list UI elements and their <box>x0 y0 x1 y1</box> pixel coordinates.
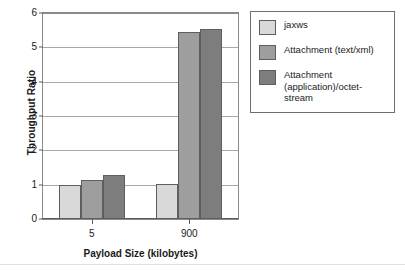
chart-legend: jaxwsAttachment (text/xml)Attachment (ap… <box>250 11 395 113</box>
legend-swatch <box>259 45 276 60</box>
x-tick-label-5: 5 <box>89 228 95 239</box>
y-tick-label-4: 4 <box>31 77 37 87</box>
legend-item: jaxws <box>259 19 387 35</box>
bar <box>103 175 125 219</box>
bar <box>156 184 178 219</box>
plot-area: 01234565900 <box>42 12 239 220</box>
legend-swatch <box>259 20 276 35</box>
bar <box>81 180 103 219</box>
legend-item: Attachment (application)/octet-stream <box>259 69 387 104</box>
legend-label: Attachment (text/xml) <box>284 44 374 56</box>
legend-label: jaxws <box>284 19 308 31</box>
x-axis-title: Payload Size (kilobytes) <box>42 248 239 259</box>
y-tick-label-0: 0 <box>31 214 37 224</box>
bar-chart-figure: Throughput Ratio 01234565900 Payload Siz… <box>0 0 405 270</box>
y-tick-label-6: 6 <box>31 8 37 18</box>
y-tick-label-3: 3 <box>31 111 37 121</box>
x-tick-label-900: 900 <box>181 228 198 239</box>
x-tick-mark <box>189 219 190 224</box>
legend-label: Attachment (application)/octet-stream <box>284 69 387 104</box>
y-tick-label-2: 2 <box>31 145 37 155</box>
bars-layer <box>43 13 238 219</box>
y-tick-label-5: 5 <box>31 42 37 52</box>
x-tick-mark <box>92 219 93 224</box>
bar-group <box>141 13 239 219</box>
bar-group <box>43 13 141 219</box>
legend-swatch <box>259 70 276 85</box>
y-tick-label-1: 1 <box>31 180 37 190</box>
scan-artifact-line <box>0 264 405 265</box>
bar <box>178 32 200 219</box>
bar <box>200 29 222 219</box>
bar <box>59 185 81 219</box>
legend-item: Attachment (text/xml) <box>259 44 387 60</box>
